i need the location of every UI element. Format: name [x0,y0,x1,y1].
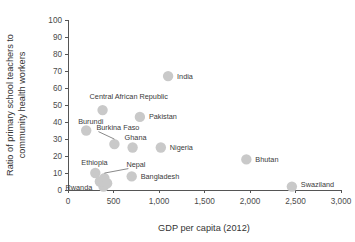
x-tick-label: 1,500 [194,197,215,206]
data-point-label: Rwanda [65,183,93,192]
label-leader-line [104,169,128,174]
y-tick-label: 30 [53,135,63,144]
y-tick-label: 90 [53,33,63,42]
x-axis-title: GDP per capita (2012) [158,223,250,233]
y-tick-label: 70 [53,67,63,76]
data-point-marker[interactable] [81,125,91,135]
data-point-marker[interactable] [109,139,119,149]
data-point-marker[interactable] [102,178,112,188]
x-tick-label: 0 [66,197,71,206]
data-point-marker[interactable] [135,112,145,122]
data-point-marker[interactable] [241,154,251,164]
data-point-label: Ethiopia [81,158,108,167]
data-point-marker[interactable] [287,181,297,191]
data-point-marker[interactable] [156,142,166,152]
data-point-label: Nigeria [170,143,194,152]
data-points: IndiaCentral African RepublicPakistanBur… [65,71,334,192]
x-tick-label: 3,000 [331,197,352,206]
label-leader-line [98,132,114,140]
y-axis-title-line1: Ratio of primary school teachers to [5,34,15,176]
data-point-label: Central African Republic [90,92,169,101]
y-tick-label: 40 [53,118,63,127]
y-axis: 0102030405060708090100 [48,16,68,195]
data-point-label: Nepal [126,160,145,169]
y-tick-label: 0 [57,186,62,195]
y-tick-label: 60 [53,84,63,93]
chart-canvas: Ratio of primary school teachers to comm… [0,0,355,242]
y-tick-label: 10 [53,169,63,178]
y-axis-title: Ratio of primary school teachers to comm… [5,34,27,176]
y-tick-label: 80 [53,50,63,59]
x-tick-label: 2,000 [240,197,261,206]
y-axis-title-line2: community health workers [17,51,27,158]
data-point-label: Bhutan [255,155,278,164]
data-point-marker[interactable] [97,105,107,115]
data-point-marker[interactable] [163,71,173,81]
data-point-label: India [177,72,194,81]
scatter-chart: Ratio of primary school teachers to comm… [0,0,355,242]
y-tick-label: 50 [53,101,63,110]
x-tick-label: 500 [107,197,121,206]
data-point-marker[interactable] [127,142,137,152]
data-point-label: Burkina Faso [96,123,139,132]
y-tick-label: 20 [53,152,63,161]
data-point-label: Swaziland [301,180,334,189]
y-tick-label: 100 [48,16,62,25]
data-point-label: Pakistan [149,112,177,121]
x-axis: 05001,0001,5002,0002,5003,000 [66,190,352,206]
data-point-label: Bangladesh [141,172,180,181]
data-point-marker[interactable] [127,171,137,181]
data-point-label: Ghana [125,133,148,142]
x-tick-label: 1,000 [149,197,170,206]
x-tick-label: 2,500 [285,197,306,206]
